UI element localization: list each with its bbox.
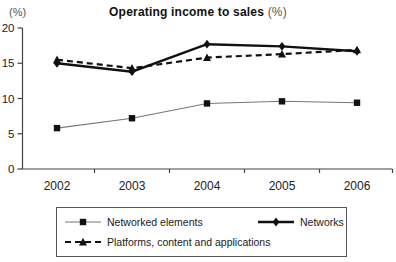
y-tick-label: 0 <box>8 163 14 175</box>
legend-marker-diamond-icon <box>257 216 295 228</box>
legend-marker-triangle-icon <box>64 236 102 248</box>
marker-networks <box>279 42 286 51</box>
figure-operating-income-chart: (%) Operating income to sales (%) 051015… <box>0 0 396 262</box>
x-tick-label: 2003 <box>119 179 146 193</box>
chart-legend: Networked elements Networks Platforms, c… <box>56 207 347 257</box>
legend-label: Networks <box>300 216 344 228</box>
marker-networked-elements <box>354 100 360 106</box>
legend-label: Platforms, content and applications <box>107 236 270 248</box>
legend-marker-square-icon <box>64 216 102 228</box>
legend-item-platforms: Platforms, content and applications <box>64 236 270 248</box>
y-tick-label: 20 <box>2 22 15 34</box>
legend-label: Networked elements <box>107 216 203 228</box>
x-tick-label: 2004 <box>194 179 221 193</box>
y-tick-label: 5 <box>8 128 14 140</box>
x-tick-label: 2002 <box>44 179 71 193</box>
y-tick-label: 15 <box>2 57 15 69</box>
legend-marker-glyph <box>273 218 280 227</box>
marker-networked-elements <box>204 100 210 106</box>
marker-networks <box>204 40 211 49</box>
marker-networked-elements <box>129 115 135 121</box>
x-tick-label: 2005 <box>269 179 296 193</box>
plot-area: 0510152020022003200420052006 <box>0 0 396 202</box>
y-tick-label: 10 <box>2 93 15 105</box>
legend-item-networks: Networks <box>257 216 344 228</box>
x-tick-label: 2006 <box>344 179 371 193</box>
legend-marker-glyph <box>80 219 86 225</box>
marker-networked-elements <box>279 98 285 104</box>
marker-platforms-content-and-applications <box>353 46 361 54</box>
marker-networked-elements <box>54 125 60 131</box>
legend-item-networked-elements: Networked elements <box>64 216 203 228</box>
